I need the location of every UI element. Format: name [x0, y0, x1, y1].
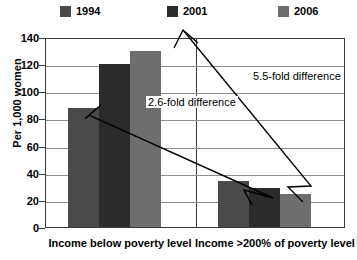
y-tick-label-120: 120: [21, 60, 39, 71]
legend-swatch-2001: [167, 6, 178, 17]
bar-2001-group-1: [99, 64, 130, 227]
y-tick-mark: [39, 228, 45, 229]
legend-label-2001: 2001: [183, 6, 207, 17]
y-tick-mark: [39, 174, 45, 175]
y-axis-tick-labels: 140120100806040200: [12, 38, 39, 228]
legend-swatch-1994: [60, 6, 71, 17]
chart-legend: 199420012006: [0, 6, 357, 26]
y-tick-label-80: 80: [27, 114, 39, 125]
fold-difference-5-5: 5.5-fold difference: [251, 70, 343, 82]
y-tick-label-60: 60: [27, 142, 39, 153]
bar-2006-group-2: [280, 194, 311, 227]
plot-area: [45, 38, 345, 228]
y-tick-label-20: 20: [27, 196, 39, 207]
gridline: [46, 66, 344, 67]
y-tick-label-140: 140: [21, 33, 39, 44]
legend-swatch-2006: [278, 6, 289, 17]
bar-chart: 199420012006 Per 1,000 women 14012010080…: [0, 0, 357, 260]
y-tick-mark: [39, 201, 45, 202]
y-tick-mark: [39, 38, 45, 39]
y-tick-label-40: 40: [27, 169, 39, 180]
y-tick-mark: [39, 147, 45, 148]
y-tick-mark: [39, 92, 45, 93]
legend-label-2006: 2006: [294, 6, 318, 17]
gridline: [46, 93, 344, 94]
legend-item-2001: 2001: [167, 6, 207, 17]
bar-1994-group-1: [68, 108, 99, 227]
legend-label-1994: 1994: [76, 6, 100, 17]
category-divider: [196, 39, 197, 227]
legend-item-1994: 1994: [60, 6, 100, 17]
bar-1994-group-2: [218, 181, 249, 227]
fold-difference-2-6: 2.6-fold difference: [146, 96, 238, 108]
y-tick-mark: [39, 65, 45, 66]
legend-item-2006: 2006: [278, 6, 318, 17]
y-tick-label-100: 100: [21, 87, 39, 98]
category-label-1: Income below poverty level: [45, 237, 195, 249]
bar-2001-group-2: [249, 188, 280, 227]
y-tick-mark: [39, 119, 45, 120]
category-label-2: Income >200% of poverty level: [195, 237, 345, 249]
bar-2006-group-1: [130, 51, 161, 227]
